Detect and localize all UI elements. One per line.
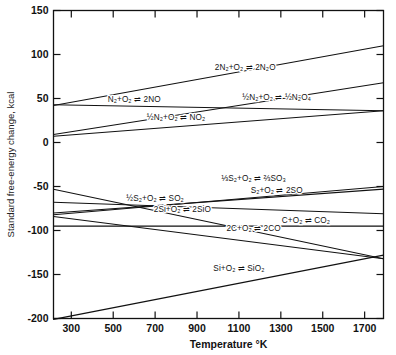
x-tick-label-1300: 1300 xyxy=(269,322,293,334)
series-label-0: 2N₂+O₂ ⇌ 2N₂O xyxy=(215,63,276,72)
series-label-7: 2Si+O₂ ⇌ 2SiO xyxy=(154,205,211,214)
data-lines-group xyxy=(54,46,384,320)
y-tick-label-100: 100 xyxy=(31,48,49,60)
y-axis-title: Standard free-energy change, kcal xyxy=(5,92,16,238)
data-line-3 xyxy=(54,111,384,137)
data-line-1 xyxy=(54,105,384,111)
y-tick-label--100: -100 xyxy=(27,224,48,236)
x-tick-label-300: 300 xyxy=(63,322,81,334)
y-tick-label--200: -200 xyxy=(27,312,48,324)
y-tick-label-0: 0 xyxy=(43,136,49,148)
y-tick-label-50: 50 xyxy=(37,92,49,104)
series-label-3: ½N₂+O₂ ⇌ NO₂ xyxy=(147,113,205,122)
series-label-4: ⅓S₂+O₂ ⇌ ⅔SO₃ xyxy=(221,174,286,183)
x-tick-label-500: 500 xyxy=(104,322,122,334)
chart-svg: 3005007009001100130015001700150100500-50… xyxy=(0,0,396,355)
x-tick-label-1700: 1700 xyxy=(353,322,377,334)
data-line-9 xyxy=(54,189,384,259)
y-tick-label--150: -150 xyxy=(27,268,48,280)
series-label-8: C+O₂ ⇌ CO₂ xyxy=(282,216,330,225)
data-line-6 xyxy=(54,202,384,213)
x-tick-label-1500: 1500 xyxy=(311,322,335,334)
x-tick-label-1100: 1100 xyxy=(228,322,251,334)
series-labels-group: 2N₂+O₂ ⇌ 2N₂O2N₂+O₂ ⇌ 2N₂ON₂+O₂ ⇌ 2NON₂+… xyxy=(108,63,330,273)
ellingham-chart-figure: 3005007009001100130015001700150100500-50… xyxy=(0,0,396,355)
data-line-7 xyxy=(54,216,384,258)
series-label-6: ½S₂+O₂ ⇌ SO₂ xyxy=(126,194,184,203)
series-label-2: ½N₂+O₂ ⇌ ½N₂O₄ xyxy=(242,93,311,102)
series-label-5: S₂+O₂ ⇌ 2SO xyxy=(251,186,303,195)
y-tick-label-150: 150 xyxy=(31,4,49,16)
series-label-9: 2C+O₂ ⇌ 2CO xyxy=(226,224,280,233)
series-label-10: Si+O₂ ⇌ SiO₂ xyxy=(213,264,264,273)
x-tick-label-900: 900 xyxy=(188,322,206,334)
y-tick-label--50: -50 xyxy=(33,180,48,192)
x-tick-label-700: 700 xyxy=(146,322,164,334)
series-label-1: N₂+O₂ ⇌ 2NO xyxy=(108,95,161,104)
data-line-5 xyxy=(54,189,384,213)
tick-labels-group: 3005007009001100130015001700150100500-50… xyxy=(27,4,376,334)
data-line-2 xyxy=(54,83,384,135)
x-axis-title: Temperature °K xyxy=(190,338,268,350)
data-line-0 xyxy=(54,46,384,106)
